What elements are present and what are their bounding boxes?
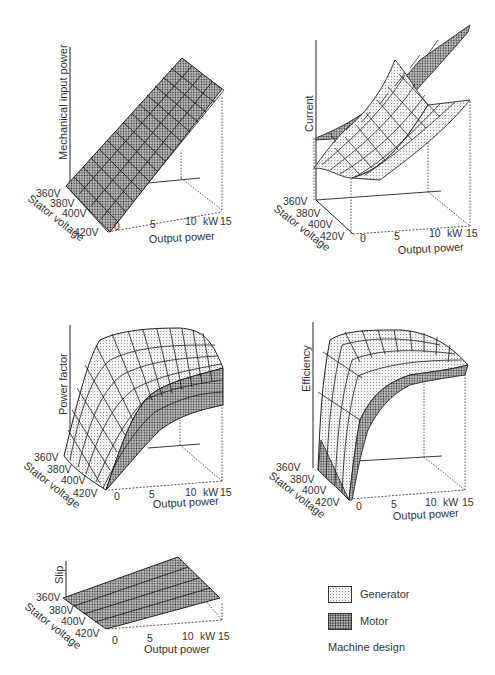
power-axis-label: Output power xyxy=(152,495,219,510)
svg-text:360V: 360V xyxy=(36,591,61,603)
svg-text:kW: kW xyxy=(447,227,462,239)
power-axis-label: Output power xyxy=(397,241,464,256)
svg-text:10: 10 xyxy=(429,227,441,239)
power-axis-label: Output power xyxy=(148,230,215,245)
z-axis-label: Current xyxy=(303,95,315,132)
z-axis-label: Efficiency xyxy=(300,345,312,392)
svg-text:5: 5 xyxy=(391,498,397,510)
legend-title: Machine design xyxy=(328,641,478,653)
svg-text:360V: 360V xyxy=(34,451,59,463)
figure-canvas: Mechanical input power 360V 380V 400V 42… xyxy=(0,0,495,675)
svg-text:0: 0 xyxy=(356,500,362,512)
svg-text:15: 15 xyxy=(218,630,230,642)
svg-text:5: 5 xyxy=(394,230,400,242)
z-axis-label: Mechanical input power xyxy=(57,44,69,160)
panel-mechanical-input-power: Mechanical input power 360V 380V 400V 42… xyxy=(26,44,232,245)
svg-text:15: 15 xyxy=(220,215,232,227)
svg-text:kW: kW xyxy=(200,630,215,642)
z-axis-label: Slip xyxy=(53,566,65,584)
svg-text:400V: 400V xyxy=(61,474,86,486)
svg-text:400V: 400V xyxy=(61,615,86,627)
svg-text:360V: 360V xyxy=(283,195,308,207)
svg-text:15: 15 xyxy=(220,486,232,498)
legend-item-generator: Generator xyxy=(328,582,478,606)
svg-text:5: 5 xyxy=(150,218,156,230)
svg-text:360V: 360V xyxy=(276,461,301,473)
svg-text:0: 0 xyxy=(360,232,366,244)
svg-text:15: 15 xyxy=(466,227,478,239)
svg-text:10: 10 xyxy=(425,496,437,508)
power-axis-label: Output power xyxy=(144,643,210,655)
svg-text:10: 10 xyxy=(185,215,197,227)
svg-text:10: 10 xyxy=(182,630,194,642)
panel-current: Current 360V 380V 400V 420V Stator volta… xyxy=(272,25,478,256)
svg-text:0: 0 xyxy=(114,490,120,502)
legend: Generator Motor Machine design xyxy=(328,582,478,653)
motor-swatch xyxy=(328,613,352,630)
svg-text:kW: kW xyxy=(203,215,218,227)
z-axis-label: Power factor xyxy=(57,353,69,415)
panel-slip: Slip 360V 380V 400V 420V Stator voltage … xyxy=(23,557,230,655)
svg-text:0: 0 xyxy=(114,220,120,232)
panel-power-factor: Power factor 360V 380V 400V 420V Stator … xyxy=(22,325,232,510)
legend-item-motor: Motor xyxy=(328,609,478,633)
svg-text:0: 0 xyxy=(112,634,118,646)
generator-swatch xyxy=(328,586,352,603)
svg-text:15: 15 xyxy=(462,496,474,508)
panel-efficiency: Efficiency 360V 380V 400V 420V Stator vo… xyxy=(267,322,474,522)
power-axis-label: Output power xyxy=(392,507,459,522)
